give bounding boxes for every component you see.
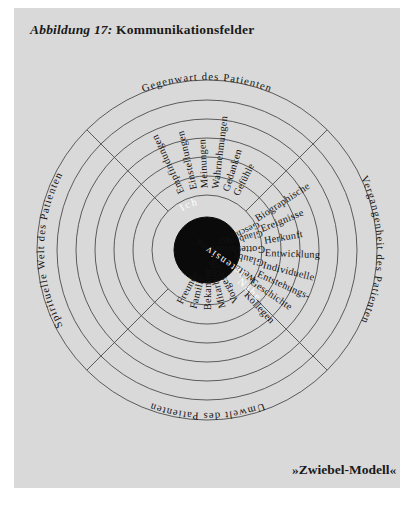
core-label-ich: Ich xyxy=(178,196,200,213)
label-meinungen: Meinungen xyxy=(196,139,210,189)
quadrant-gegenwart: Gefühle Gedanken Wahrnehmungen Meinungen… xyxy=(149,115,256,197)
label-entwicklung: Entwicklung xyxy=(265,247,321,260)
outer-label-bottom: Umwelt des Patienten xyxy=(148,401,267,422)
spoke-sw xyxy=(87,289,168,370)
figure-page: Abbildung 17: Kommunikationsfelder xyxy=(0,0,414,511)
onion-svg: Gegenwart des Patienten Vergangenheit de… xyxy=(14,8,400,488)
onion-diagram: Gegenwart des Patienten Vergangenheit de… xyxy=(14,8,400,488)
figure-caption: »Zwiebel-Modell« xyxy=(292,462,396,478)
outer-label-left: Spirituelle Welt des Patienten xyxy=(35,170,65,330)
outer-label-top: Gegenwart des Patienten xyxy=(140,71,274,94)
outer-label-right: Vergangenheit des Patienten xyxy=(359,174,386,326)
